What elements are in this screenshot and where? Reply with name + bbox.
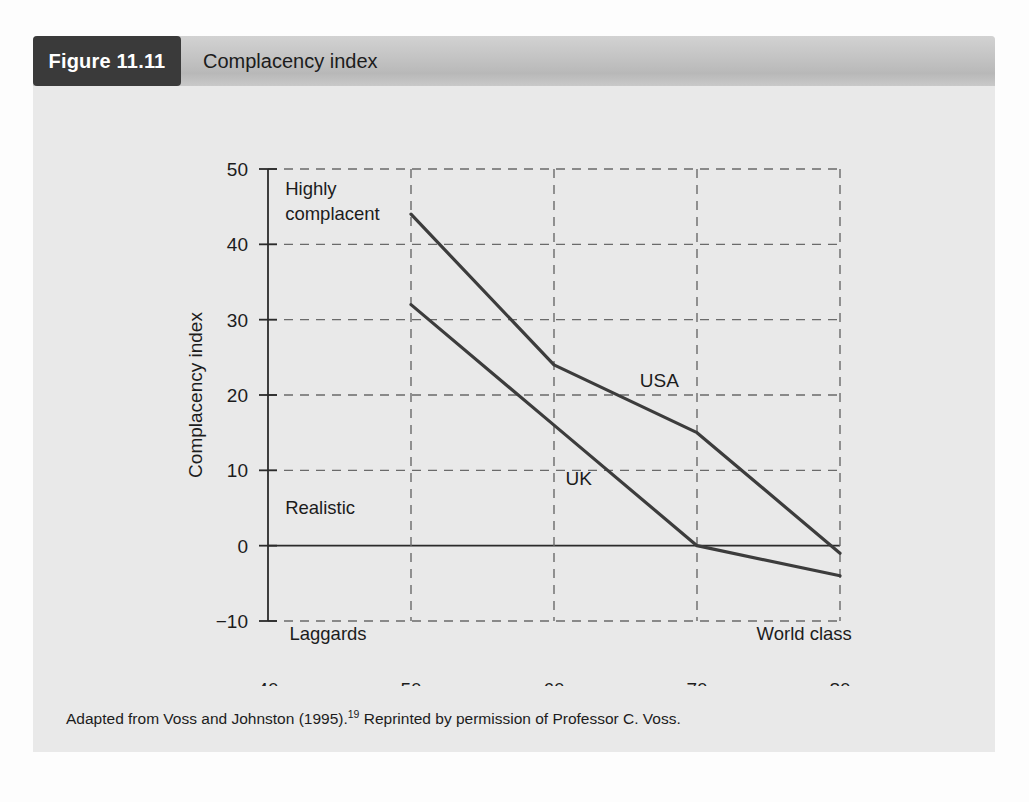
xtick-label-40: 40 — [257, 679, 278, 686]
annotation-highly-complacent-line2: complacent — [285, 203, 380, 224]
annotation-realistic: Realistic — [285, 497, 355, 518]
ytick-label-50: 50 — [227, 159, 248, 180]
series-line-uk — [411, 305, 840, 576]
ytick-label-10: 10 — [227, 460, 248, 481]
xtick-label-80: 80 — [829, 679, 850, 686]
page-root: Figure 11.11 Complacency index −10010203… — [0, 0, 1029, 802]
caption-suffix-text: Reprinted by permission of Professor C. … — [359, 710, 680, 727]
figure-caption: Adapted from Voss and Johnston (1995).19… — [66, 708, 966, 729]
chart-canvas: −10010203040504050607080USAUKHighlycompl… — [33, 86, 995, 686]
caption-prefix-text: Adapted from Voss and Johnston (1995). — [66, 710, 348, 727]
y-axis-title: Complacency index — [185, 312, 206, 478]
complacency-index-line-chart: −10010203040504050607080USAUKHighlycompl… — [33, 86, 995, 686]
annotation-world-class: World class — [757, 623, 852, 644]
ytick-label-30: 30 — [227, 310, 248, 331]
ytick-label-0: 0 — [237, 536, 248, 557]
figure-body: −10010203040504050607080USAUKHighlycompl… — [33, 86, 995, 752]
xtick-label-50: 50 — [400, 679, 421, 686]
figure-title: Complacency index — [203, 36, 378, 86]
series-label-uk: UK — [565, 468, 592, 489]
figure-header-bar: Figure 11.11 Complacency index — [33, 36, 995, 86]
series-label-usa: USA — [640, 370, 679, 391]
ytick-label--10: −10 — [216, 611, 248, 632]
series-line-usa — [411, 214, 840, 553]
annotation-laggards: Laggards — [289, 623, 366, 644]
xtick-label-70: 70 — [686, 679, 707, 686]
ytick-label-40: 40 — [227, 234, 248, 255]
xtick-label-60: 60 — [543, 679, 564, 686]
figure-number-label: Figure 11.11 — [49, 50, 166, 73]
figure-panel: Figure 11.11 Complacency index −10010203… — [33, 36, 995, 752]
figure-number-badge: Figure 11.11 — [33, 36, 181, 86]
annotation-highly-complacent: Highly — [285, 178, 337, 199]
ytick-label-20: 20 — [227, 385, 248, 406]
caption-footnote-marker: 19 — [348, 708, 360, 720]
